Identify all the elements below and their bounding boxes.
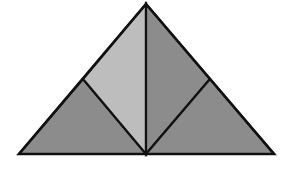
pieces-group xyxy=(19,4,274,154)
triangle-dissection-diagram xyxy=(0,0,288,172)
